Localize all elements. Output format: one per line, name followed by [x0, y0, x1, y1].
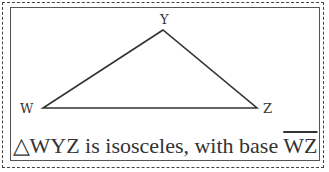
triangle-wyz [43, 30, 257, 108]
triangle-symbol: △ [13, 133, 30, 158]
vertex-label-z: Z [263, 101, 272, 116]
caption: △WYZ is isosceles, with base WZ [10, 133, 320, 159]
triangle-name: WYZ [30, 133, 80, 158]
caption-text: is isosceles, with base [80, 133, 284, 158]
vertex-label-y: Y [159, 12, 169, 27]
base-segment: WZ [283, 133, 317, 158]
vertex-label-w: W [20, 101, 34, 116]
